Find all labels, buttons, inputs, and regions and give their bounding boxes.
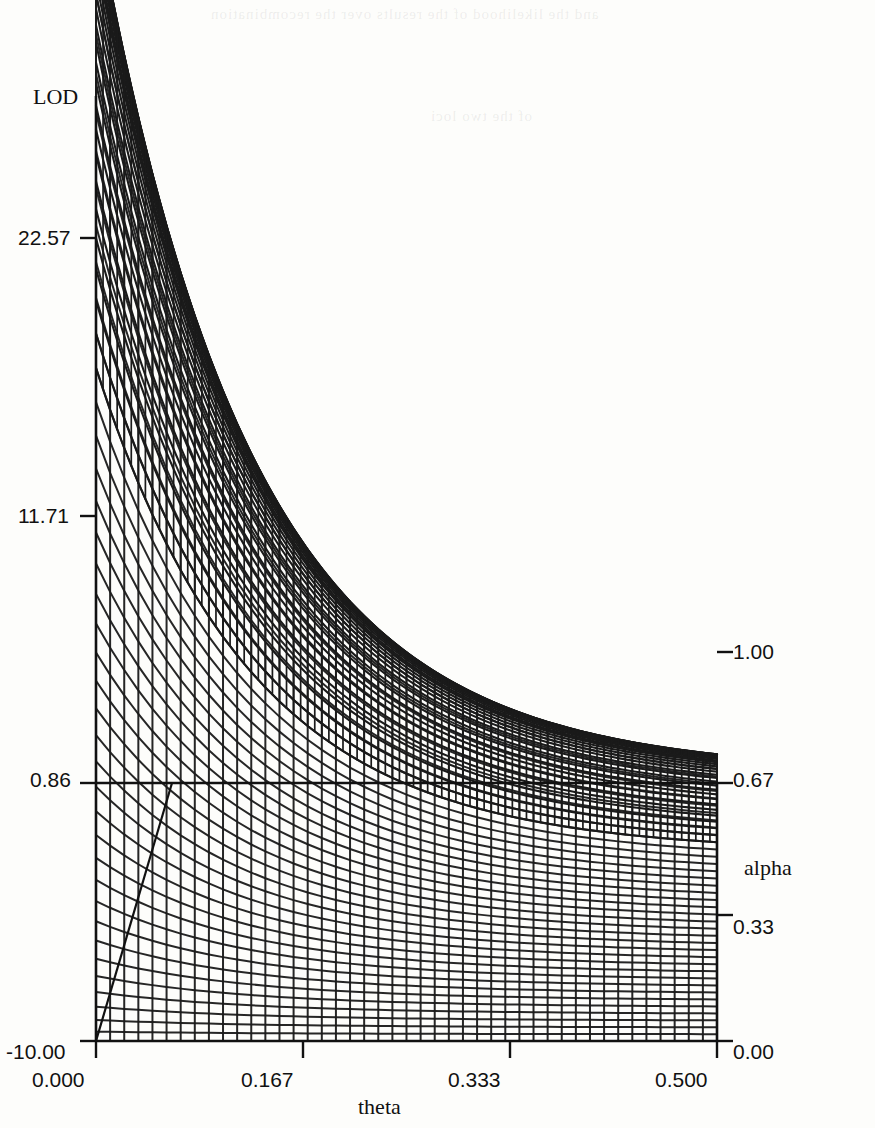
x-tick-0-167: 0.167 <box>241 1068 294 1092</box>
y-tick-1-00: 1.00 <box>733 640 774 664</box>
mesh-wireframe <box>96 0 717 1041</box>
z-tick-11-71: 11.71 <box>18 504 69 528</box>
surface-plot-figure: and the likelihood of the results over t… <box>0 0 875 1128</box>
x-tick-0-333: 0.333 <box>448 1068 501 1092</box>
wireframe-surface-canvas <box>0 0 875 1128</box>
y-axis-title: alpha <box>744 855 792 881</box>
y-tick-0-67: 0.67 <box>733 768 774 792</box>
z-tick-22-57: 22.57 <box>18 226 71 250</box>
z-tick-minus-10: -10.00 <box>6 1040 66 1064</box>
x-axis-title: theta <box>358 1094 401 1120</box>
y-tick-0-00: 0.00 <box>733 1040 774 1064</box>
y-tick-0-33: 0.33 <box>733 915 774 939</box>
z-tick-0-86: 0.86 <box>30 768 71 792</box>
x-tick-0-500: 0.500 <box>655 1068 708 1092</box>
z-axis-title: LOD <box>33 84 78 110</box>
x-tick-0-000: 0.000 <box>32 1068 85 1092</box>
